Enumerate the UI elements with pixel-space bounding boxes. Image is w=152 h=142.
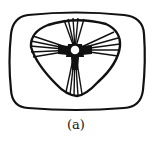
figure-caption: (a) xyxy=(0,117,152,132)
center-circle xyxy=(70,45,80,55)
